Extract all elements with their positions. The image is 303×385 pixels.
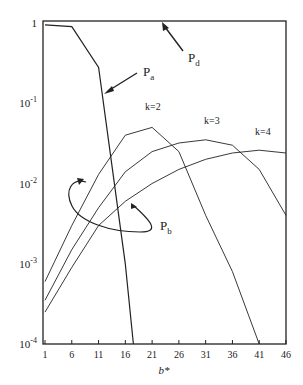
x-axis-label: b* — [159, 364, 171, 376]
pb-label: Pb — [160, 218, 172, 236]
x-tick-label: 26 — [174, 349, 184, 360]
chart: 161116212631364146 110-110-210-310-4 b* … — [0, 0, 303, 385]
series-Pa — [45, 25, 133, 344]
k4-label: k=4 — [255, 126, 271, 137]
y-axis-ticks: 110-110-210-310-4 — [19, 17, 37, 350]
y-tick-label: 10-2 — [19, 176, 37, 190]
x-tick-label: 36 — [227, 349, 237, 360]
x-tick-label: 46 — [281, 349, 291, 360]
k3-label: k=3 — [204, 115, 220, 126]
y-tick-label: 10-3 — [19, 256, 37, 270]
x-tick-label: 41 — [254, 349, 264, 360]
pa-arrowhead-icon — [104, 86, 114, 94]
x-axis-ticks: 161116212631364146 — [43, 340, 292, 360]
x-tick-label: 11 — [94, 349, 104, 360]
x-tick-label: 1 — [43, 349, 48, 360]
series-k2 — [45, 127, 259, 344]
y-tick-label: 1 — [32, 17, 38, 29]
pd-arrowhead-icon — [162, 22, 169, 31]
pd-arrow — [165, 27, 183, 51]
pa-label: Pa — [143, 64, 154, 82]
y-tick-label: 10-4 — [19, 336, 37, 350]
x-tick-label: 6 — [69, 349, 74, 360]
chart-svg: 161116212631364146 110-110-210-310-4 b* … — [0, 0, 303, 385]
series-lines — [45, 25, 286, 344]
x-tick-label: 31 — [201, 349, 211, 360]
x-tick-label: 21 — [147, 349, 157, 360]
k2-label: k=2 — [145, 101, 161, 112]
x-tick-label: 16 — [120, 349, 130, 360]
pd-label: Pd — [188, 50, 200, 68]
y-tick-label: 10-1 — [19, 95, 37, 109]
